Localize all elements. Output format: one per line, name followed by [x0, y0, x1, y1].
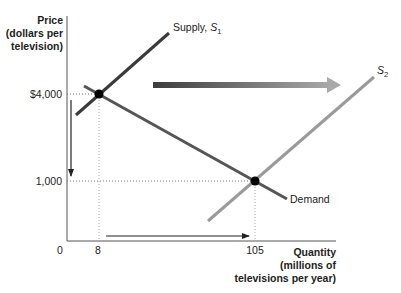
svg-text:televisions per year): televisions per year): [234, 272, 336, 284]
y-tick-1000: 1,000: [36, 175, 62, 187]
x-tick-105: 105: [246, 244, 264, 256]
supply-s1-label: Supply, S1: [173, 21, 221, 36]
x-tick-8: 8: [95, 244, 101, 256]
svg-text:television): television): [11, 40, 63, 52]
svg-text:Price: Price: [37, 14, 63, 26]
svg-text:(dollars per: (dollars per: [6, 27, 63, 39]
supply-demand-chart: Price (dollars per television) $4,000 1,…: [0, 0, 401, 293]
svg-text:Quantity: Quantity: [293, 246, 336, 258]
x-tick-0: 0: [57, 244, 63, 256]
supply-shift-arrow: [153, 77, 341, 93]
supply-s2-label: S2: [377, 64, 388, 79]
equilibrium-point-1: [95, 90, 104, 99]
y-axis-label: Price (dollars per television): [6, 14, 63, 52]
supply-s1-curve: [76, 33, 169, 115]
equilibrium-point-2: [251, 177, 260, 186]
demand-label: Demand: [290, 193, 330, 205]
y-tick-4000: $4,000: [30, 88, 62, 100]
svg-text:(millions of: (millions of: [280, 259, 337, 271]
